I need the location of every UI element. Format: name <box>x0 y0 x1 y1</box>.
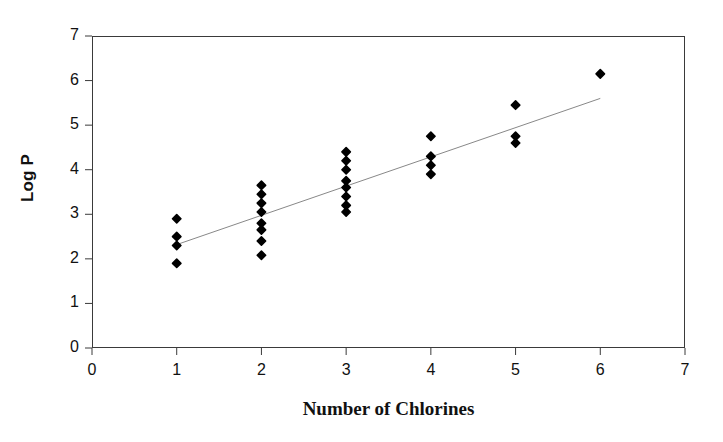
x-tick-label: 0 <box>79 361 105 379</box>
y-tick-label: 3 <box>53 204 79 222</box>
y-axis-title: Log P <box>18 128 38 228</box>
scatter-chart-figure: Log P 01234567 01234567 Number of Chlori… <box>0 0 723 442</box>
x-tick-label: 5 <box>503 361 529 379</box>
plot-area <box>92 36 685 348</box>
y-tick-label: 7 <box>53 26 79 44</box>
x-tick-label: 4 <box>418 361 444 379</box>
x-tick-label: 3 <box>333 361 359 379</box>
x-tick-label: 7 <box>672 361 698 379</box>
y-tick-label: 0 <box>53 338 79 356</box>
x-axis-title: Number of Chlorines <box>92 398 685 420</box>
x-tick-label: 6 <box>587 361 613 379</box>
y-tick-label: 1 <box>53 293 79 311</box>
x-tick-label: 1 <box>164 361 190 379</box>
y-axis-ticks <box>85 36 92 348</box>
y-tick-label: 2 <box>53 249 79 267</box>
y-tick-label: 6 <box>53 71 79 89</box>
x-axis-ticks <box>92 348 685 355</box>
x-tick-label: 2 <box>248 361 274 379</box>
y-tick-label: 5 <box>53 115 79 133</box>
y-tick-label: 4 <box>53 160 79 178</box>
